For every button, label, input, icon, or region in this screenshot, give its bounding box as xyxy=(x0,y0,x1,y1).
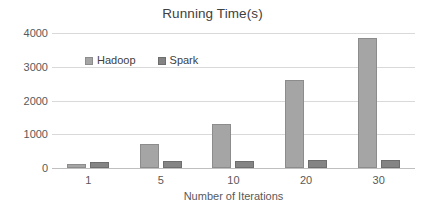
bar-hadoop-10[interactable] xyxy=(212,124,231,168)
y-axis-tick-label: 0 xyxy=(4,163,48,174)
bar-group xyxy=(270,33,343,168)
y-axis-tick-label: 4000 xyxy=(4,28,48,39)
legend-swatch-icon xyxy=(85,57,93,65)
y-axis-tick-label: 2000 xyxy=(4,95,48,106)
axis-zero-line xyxy=(52,168,415,169)
x-axis-tick-label: 1 xyxy=(52,172,125,188)
bar-group xyxy=(197,33,270,168)
bar-spark-1[interactable] xyxy=(90,162,109,168)
chart-legend: HadoopSpark xyxy=(85,55,198,66)
bar-spark-20[interactable] xyxy=(308,160,327,168)
legend-entry-hadoop[interactable]: Hadoop xyxy=(85,55,136,66)
x-axis-tick-label: 5 xyxy=(125,172,198,188)
legend-swatch-icon xyxy=(158,57,166,65)
x-axis-tick-label: 20 xyxy=(270,172,343,188)
chart-title: Running Time(s) xyxy=(0,6,425,21)
bar-spark-10[interactable] xyxy=(235,161,254,168)
bar-hadoop-5[interactable] xyxy=(140,144,159,168)
legend-entry-spark[interactable]: Spark xyxy=(158,55,199,66)
x-axis-title: Number of Iterations xyxy=(52,189,415,203)
y-axis: 01000200030004000 xyxy=(0,33,48,168)
y-axis-tick-label: 1000 xyxy=(4,129,48,140)
legend-label: Spark xyxy=(170,55,199,66)
bar-spark-30[interactable] xyxy=(381,160,400,168)
bar-hadoop-1[interactable] xyxy=(67,164,86,168)
bar-hadoop-30[interactable] xyxy=(358,38,377,168)
x-axis-tick-label: 30 xyxy=(342,172,415,188)
x-axis-tick-label: 10 xyxy=(197,172,270,188)
bar-hadoop-20[interactable] xyxy=(285,80,304,168)
bar-group xyxy=(342,33,415,168)
bar-spark-5[interactable] xyxy=(163,161,182,168)
chart-container: Running Time(s) 01000200030004000 Hadoop… xyxy=(0,0,425,209)
legend-label: Hadoop xyxy=(97,55,136,66)
x-axis: 15102030 xyxy=(52,172,415,188)
y-axis-tick-label: 3000 xyxy=(4,61,48,72)
